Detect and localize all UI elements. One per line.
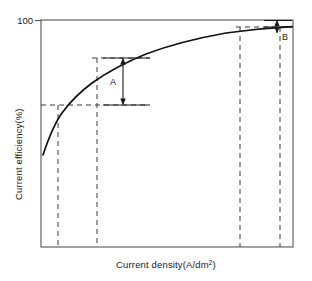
y-tick-label-100: 100 — [17, 15, 33, 26]
x-axis-label: Current density(A/dm2) — [116, 259, 216, 271]
chart-figure: 100 — [0, 0, 312, 281]
x-axis-label-main: Current density(A/dm — [116, 259, 209, 270]
annotation-b-label: B — [282, 32, 288, 42]
chart-svg: 100 — [0, 0, 312, 281]
y-axis-label: Current efficiency(%) — [13, 108, 24, 200]
annotation-a-label: A — [110, 77, 116, 87]
plot-frame — [41, 20, 293, 247]
x-axis-label-tail: ) — [213, 259, 216, 270]
